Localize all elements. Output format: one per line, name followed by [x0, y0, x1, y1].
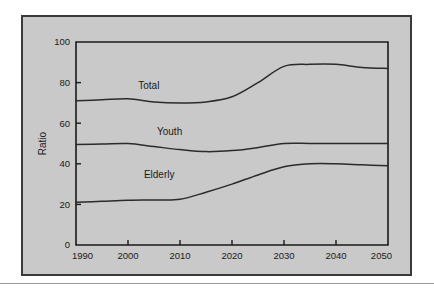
x-tick-label: 2000 [117, 250, 138, 261]
x-tick-label: 2050 [371, 250, 392, 261]
x-tick-label: 1990 [72, 250, 93, 261]
x-tick-label: 2030 [273, 250, 294, 261]
series-label-elderly: Elderly [144, 169, 175, 180]
chart-area: 0204060801001990200020102020203020402050… [23, 17, 414, 278]
population-ratio-line-chart: 0204060801001990200020102020203020402050… [23, 17, 414, 278]
series-label-total: Total [138, 80, 159, 91]
series-line-youth [76, 143, 388, 151]
y-tick-label: 0 [65, 239, 70, 250]
y-tick-label: 80 [59, 77, 70, 88]
figure-panel: 0204060801001990200020102020203020402050… [21, 15, 412, 276]
page-divider-rule [0, 283, 434, 284]
y-tick-label: 60 [59, 118, 70, 129]
y-tick-label: 20 [59, 199, 70, 210]
y-tick-label: 40 [59, 158, 70, 169]
series-label-youth: Youth [157, 126, 182, 137]
x-tick-label: 2010 [169, 250, 190, 261]
x-tick-label: 2040 [325, 250, 346, 261]
y-axis-title: Ratio [37, 131, 48, 155]
x-tick-label: 2020 [221, 250, 242, 261]
series-line-total [76, 64, 388, 103]
series-line-elderly [76, 164, 388, 203]
y-tick-label: 100 [54, 36, 70, 47]
